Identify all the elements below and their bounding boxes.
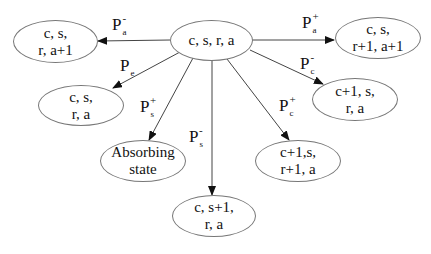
state-left-mid: c, s, r, a [38,85,124,126]
node-line2: r, a+1 [38,42,73,59]
node-line2: r+1, a [280,161,315,178]
label-base: P [140,97,149,116]
label-sup: - [310,51,314,63]
label-sup: + [312,10,318,22]
label-sup: + [289,93,295,105]
label-ps-minus: Ps- [189,128,203,148]
label-sub: e [130,68,134,78]
label-base: P [300,54,309,73]
node-line2: r+1, a+1 [352,38,403,55]
node-line1: Absorbing [111,144,174,161]
node-line1: c+1,s, [280,144,316,161]
state-right-top: c, s, r+1, a+1 [335,17,421,59]
label-base: P [279,96,288,115]
state-bottom: c, s+1, r, a [172,195,256,237]
node-line2: r, a [205,216,224,233]
state-center: c, s, r, a [170,20,253,61]
label-sub: c [310,66,314,76]
label-pa-minus: Pa- [112,16,126,36]
label-base: P [189,127,198,146]
label-sub: a [312,25,316,35]
label-pa-plus: Pa+ [302,14,319,34]
node-line1: c, s+1, [194,199,234,216]
state-right-mid: c+1, s, r, a [312,78,398,121]
label-sup: + [150,94,156,106]
label-base: P [112,15,121,34]
label-sub: s [199,139,203,149]
state-transition-diagram: c, s, r, a c, s, r, a+1 c, s, r+1, a+1 c… [0,0,431,254]
state-right-low: c+1,s, r+1, a [255,140,341,182]
label-sup: - [122,12,126,24]
node-line1: c, s, [44,25,68,42]
node-line2: r, a [72,106,91,123]
node-line1: c, s, [366,21,390,38]
node-line1: c+1, s, [335,83,375,100]
state-center-label: c, s, r, a [188,32,234,49]
label-pc-minus: Pc- [300,55,314,75]
label-base: P [302,13,311,32]
node-line1: c, s, [69,89,93,106]
label-base: P [120,56,129,75]
state-absorbing: Absorbing state [100,140,186,182]
label-pc-plus: Pc+ [279,97,296,117]
label-ps-plus: Ps+ [140,98,156,118]
edge-to-left-top [98,40,170,41]
label-sub: s [150,109,154,119]
label-sub: c [289,108,293,118]
node-line2: r, a [346,100,365,117]
label-sub: a [122,27,126,37]
label-pe: Pe [120,57,134,77]
label-sup: - [199,124,203,136]
state-left-top: c, s, r, a+1 [13,20,98,63]
node-line2: state [129,161,157,178]
